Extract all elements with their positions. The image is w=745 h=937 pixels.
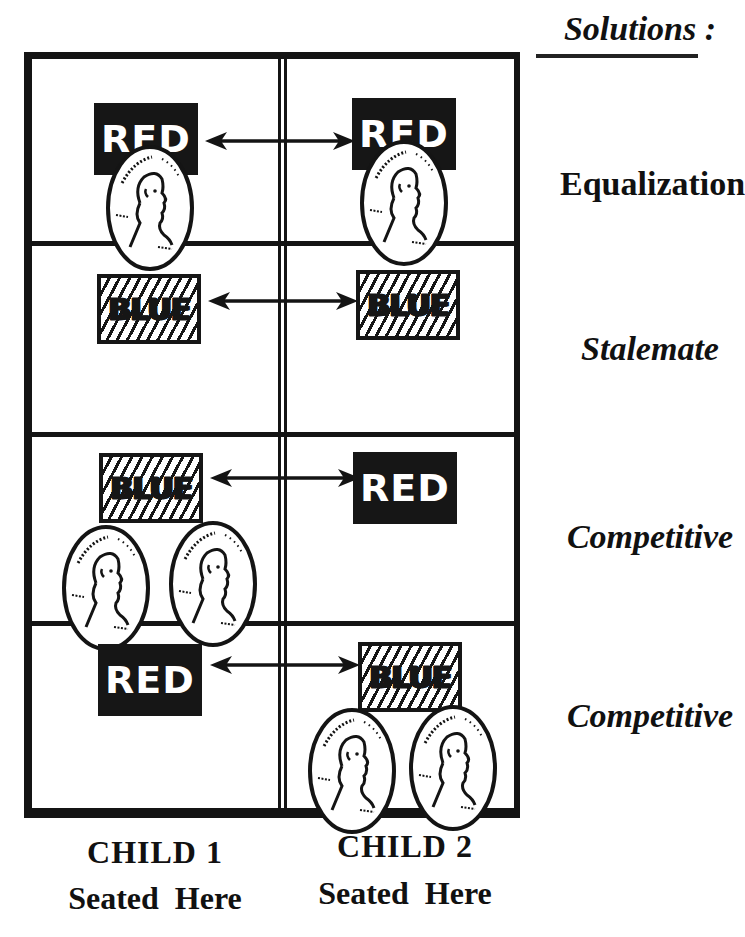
penny-icon [358,138,450,268]
child-1-seat-label: Seated Here [45,880,265,917]
solution-competitive-2: Competitive [560,697,740,735]
row3-right-red-label: RED [353,452,457,524]
row4-right-blue-label: BLUE [358,642,462,712]
row2-left-blue-label: BLUE [97,274,201,344]
double-arrow-icon [205,130,355,152]
heading-underline [536,54,698,58]
child-2-label: CHILD 2 [295,828,515,865]
row-divider-2 [24,432,520,437]
solution-stalemate: Stalemate [560,330,740,368]
double-arrow-icon [210,654,360,676]
label-text: RED [105,658,195,702]
solution-competitive-1: Competitive [560,518,740,556]
label-text: BLUE [108,292,190,327]
row2-right-blue-label: BLUE [356,270,460,340]
row3-left-blue-label: BLUE [99,453,203,523]
penny-icon [60,523,152,653]
child-1-label: CHILD 1 [45,834,265,871]
label-text: BLUE [110,471,192,506]
label-text: RED [360,466,450,510]
double-arrow-icon [208,290,358,312]
penny-icon [306,706,398,836]
solutions-heading: Solutions : [555,10,725,48]
grid-border-top [24,52,520,59]
label-text: BLUE [369,660,451,695]
penny-icon [167,519,259,649]
label-text: BLUE [367,288,449,323]
penny-icon [407,703,499,833]
row4-left-red-label: RED [98,644,202,716]
child-2-seat-label: Seated Here [295,875,515,912]
penny-icon [104,143,196,273]
double-arrow-icon [210,467,360,489]
solution-equalization: Equalization [560,165,740,203]
